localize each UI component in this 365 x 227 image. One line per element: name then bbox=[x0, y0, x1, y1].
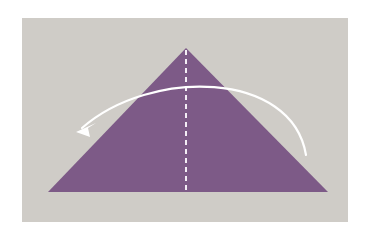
origami-diagram bbox=[0, 0, 365, 227]
paper-triangle bbox=[48, 48, 328, 192]
